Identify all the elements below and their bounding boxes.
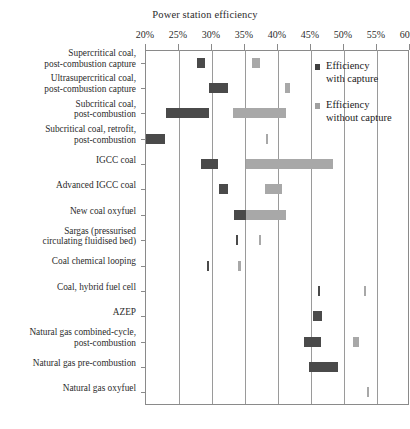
y-axis-label: Advanced IGCC coal <box>0 180 136 191</box>
legend-label-without-capture: Efficiencywithout capture <box>326 99 407 124</box>
legend-swatch-with-capture <box>315 64 320 70</box>
y-axis-label: Subcritical coal, retrofit,post-combusti… <box>0 124 136 145</box>
y-axis-label: Natural gas pre-combustion <box>0 358 136 369</box>
bar-with-capture <box>166 108 209 118</box>
bar-with-capture <box>313 311 322 321</box>
y-tick <box>141 342 146 343</box>
y-axis-label: AZEP <box>0 307 136 318</box>
gridline <box>245 50 246 404</box>
bar-without-capture <box>259 235 261 245</box>
gridline <box>311 50 312 404</box>
bar-with-capture <box>146 134 165 144</box>
legend-item-without-capture: Efficiencywithout capture <box>315 99 407 124</box>
x-tick-label: 60% <box>389 29 410 40</box>
bar-without-capture <box>367 387 369 397</box>
bar-with-capture <box>197 58 205 68</box>
bar-with-capture <box>309 362 338 372</box>
legend-label-with-capture: Efficiencywith capture <box>326 60 407 85</box>
bar-with-capture <box>236 235 238 245</box>
y-axis-label: Natural gas combined-cycle,post-combusti… <box>0 327 136 348</box>
chart-title: Power station efficiency <box>0 9 410 20</box>
gridline <box>278 50 279 404</box>
y-axis-label: New coal oxyfuel <box>0 206 136 217</box>
bar-without-capture <box>285 83 290 93</box>
y-axis-label: Sargas (pressurisedcirculating fluidised… <box>0 226 136 247</box>
y-axis-label: Natural gas oxyfuel <box>0 383 136 394</box>
y-tick <box>141 164 146 165</box>
y-axis-label: Coal, hybrid fuel cell <box>0 282 136 293</box>
bar-with-capture <box>201 159 218 169</box>
y-tick <box>141 88 146 89</box>
y-axis-label: Coal chemical looping <box>0 256 136 267</box>
bar-without-capture <box>252 58 260 68</box>
y-tick <box>141 215 146 216</box>
y-tick <box>141 367 146 368</box>
y-tick <box>141 316 146 317</box>
y-axis-label: Ultrasupercritical coal,post-combustion … <box>0 73 136 94</box>
gridline <box>179 50 180 404</box>
y-tick <box>141 291 146 292</box>
bar-without-capture <box>246 210 286 220</box>
bar-with-capture <box>207 261 209 271</box>
bar-without-capture <box>353 337 358 347</box>
y-axis-label: Subcritical coal,post-combustion <box>0 99 136 120</box>
y-axis-label: Supercritical coal,post-combustion captu… <box>0 48 136 69</box>
legend-swatch-without-capture <box>315 103 320 109</box>
bar-without-capture <box>364 286 366 296</box>
chart-container: Power station efficiency 20%25%30%35%40%… <box>0 0 410 429</box>
y-tick <box>141 392 146 393</box>
y-tick <box>141 139 146 140</box>
y-axis-label: IGCC coal <box>0 155 136 166</box>
bar-without-capture <box>265 184 282 194</box>
y-tick <box>141 240 146 241</box>
bar-without-capture <box>238 261 240 271</box>
bar-with-capture <box>209 83 229 93</box>
bar-without-capture <box>266 134 268 144</box>
y-tick <box>141 113 146 114</box>
bar-with-capture <box>318 286 320 296</box>
y-tick <box>141 63 146 64</box>
chart-legend: Efficiencywith capture Efficiencywithout… <box>315 60 407 138</box>
legend-item-with-capture: Efficiencywith capture <box>315 60 407 85</box>
gridline <box>212 50 213 404</box>
y-tick <box>141 189 146 190</box>
bar-with-capture <box>304 337 321 347</box>
bar-without-capture <box>246 159 334 169</box>
bar-without-capture <box>233 108 286 118</box>
bar-with-capture <box>219 184 228 194</box>
bar-with-capture <box>234 210 247 220</box>
y-tick <box>141 266 146 267</box>
